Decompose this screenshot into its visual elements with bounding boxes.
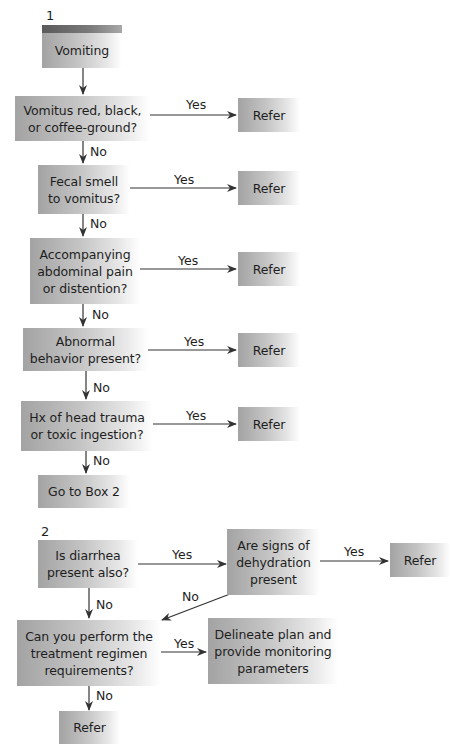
goto-box-2-node: Go to Box 2 <box>38 475 130 508</box>
no-label: No <box>182 589 199 604</box>
no-label: No <box>96 688 113 703</box>
node-label: Go to Box 2 <box>48 483 120 500</box>
no-label: No <box>96 597 113 612</box>
decision-dehydration: Are signs of dehydration present <box>227 529 320 595</box>
decision-head-trauma: Hx of head trauma or toxic ingestion? <box>21 401 153 451</box>
no-label: No <box>90 144 107 159</box>
yes-label: Yes <box>178 253 198 268</box>
yes-label: Yes <box>344 544 364 559</box>
node-label: Refer <box>253 261 286 278</box>
refer-node-3: Refer <box>238 252 300 286</box>
node-label: Refer <box>253 416 286 433</box>
decision-fecal-smell: Fecal smell to vomitus? <box>38 165 130 214</box>
node-label: Vomitus red, black, or coffee-ground? <box>24 102 142 136</box>
no-label: No <box>90 216 107 231</box>
decision-abdominal-pain: Accompanying abdominal pain or distentio… <box>30 238 140 304</box>
node-label: Vomiting <box>55 42 109 59</box>
section-number-1: 1 <box>46 8 54 23</box>
decision-abnormal-behavior: Abnormal behavior present? <box>23 328 148 371</box>
node-label: Accompanying abdominal pain or distentio… <box>37 246 132 297</box>
plan-node: Delineate plan and provide monitoring pa… <box>208 618 338 684</box>
yes-label: Yes <box>174 636 194 651</box>
refer-node-2: Refer <box>238 171 300 205</box>
node-label: Abnormal behavior present? <box>30 333 141 367</box>
yes-label: Yes <box>186 408 206 423</box>
node-label: Delineate plan and provide monitoring pa… <box>214 626 331 677</box>
refer-node-4: Refer <box>238 333 300 367</box>
node-label: Hx of head trauma or toxic ingestion? <box>29 409 145 443</box>
node-label: Fecal smell to vomitus? <box>48 173 120 207</box>
yes-label: Yes <box>184 334 204 349</box>
refer-node-dehydration: Refer <box>390 543 450 577</box>
yes-label: Yes <box>172 547 192 562</box>
decision-diarrhea: Is diarrhea present also? <box>38 540 138 588</box>
node-label: Are signs of dehydration present <box>236 537 311 588</box>
refer-node-final: Refer <box>59 711 120 744</box>
node-label: Refer <box>404 552 437 569</box>
decision-treatment-regimen: Can you perform the treatment regimen re… <box>17 620 161 686</box>
node-label: Is diarrhea present also? <box>47 547 129 581</box>
node-label: Refer <box>253 107 286 124</box>
no-label: No <box>92 307 109 322</box>
section-number-2: 2 <box>41 524 49 539</box>
node-label: Refer <box>73 719 106 736</box>
node-label: Refer <box>253 342 286 359</box>
start-node-vomiting: Vomiting <box>42 25 122 68</box>
no-label: No <box>93 453 110 468</box>
node-label: Refer <box>253 180 286 197</box>
refer-node-5: Refer <box>238 407 300 441</box>
node-label: Can you perform the treatment regimen re… <box>25 628 153 679</box>
no-label: No <box>93 380 110 395</box>
refer-node-1: Refer <box>238 98 300 132</box>
yes-label: Yes <box>174 172 194 187</box>
decision-vomitus-color: Vomitus red, black, or coffee-ground? <box>15 96 150 141</box>
yes-label: Yes <box>186 97 206 112</box>
